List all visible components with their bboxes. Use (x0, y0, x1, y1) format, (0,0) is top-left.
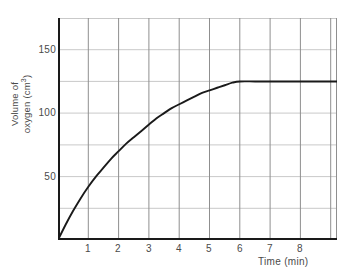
chart-figure: 150 100 50 1 2 3 4 5 6 7 8 Volume of oxy… (0, 0, 351, 274)
plot-area (58, 18, 337, 240)
y-tick-50: 50 (30, 172, 56, 182)
vertical-gridlines (88, 18, 330, 240)
x-tick-7: 7 (260, 243, 280, 254)
x-tick-3: 3 (139, 243, 159, 254)
data-curve (58, 81, 337, 240)
x-tick-5: 5 (199, 243, 219, 254)
x-tick-2: 2 (108, 243, 128, 254)
y-axis-title-line1: Volume of (9, 49, 21, 159)
x-tick-8: 8 (290, 243, 310, 254)
y-axis-title-superscript: 3 (20, 78, 27, 82)
chart-svg (58, 18, 337, 240)
x-tick-4: 4 (169, 243, 189, 254)
x-tick-6: 6 (230, 243, 250, 254)
horizontal-gridlines (58, 19, 337, 241)
y-axis-title-line2-text: oxygen (cm (21, 82, 32, 133)
y-axis-title: Volume of oxygen (cm3) (9, 49, 33, 159)
y-axis-title-line2: oxygen (cm3) (21, 49, 33, 159)
x-axis-title: Time (min) (258, 256, 308, 267)
y-axis-title-line2-close: ) (21, 75, 32, 78)
y-tick-150: 150 (30, 45, 56, 55)
x-tick-1: 1 (78, 243, 98, 254)
y-tick-100: 100 (30, 108, 56, 118)
